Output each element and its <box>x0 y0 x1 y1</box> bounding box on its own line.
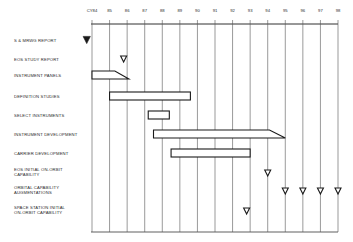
row-label: DEFINITION STUDIES <box>14 94 84 99</box>
x-tick-label: 89 <box>178 8 183 13</box>
gantt-bar <box>92 71 129 79</box>
x-tick-label: 87 <box>142 8 147 13</box>
row-label: INSTRUMENT PANELS <box>14 73 84 78</box>
gantt-bar <box>171 149 250 157</box>
row-label: SPACE STATION INITIAL ON-ORBIT CAPABILIT… <box>14 205 84 215</box>
open-milestone-icon <box>121 56 127 62</box>
row-label: INSTRUMENT DEVELOPMENT <box>14 132 84 137</box>
open-milestone-icon <box>244 208 250 214</box>
filled-milestone-icon <box>83 36 90 43</box>
gantt-bar <box>110 92 191 100</box>
open-milestone-icon <box>300 188 306 194</box>
open-milestone-icon <box>317 188 323 194</box>
x-tick-label: 94 <box>265 8 270 13</box>
gantt-bar <box>154 130 286 138</box>
open-milestone-icon <box>265 170 271 176</box>
x-tick-label: 90 <box>195 8 200 13</box>
x-tick-label: 91 <box>213 8 218 13</box>
x-tick-label: 97 <box>318 8 323 13</box>
row-label: EOS STUDY REPORT <box>14 57 84 62</box>
x-tick-label: 92 <box>230 8 235 13</box>
x-tick-label: 88 <box>160 8 165 13</box>
open-milestone-icon <box>282 188 288 194</box>
open-milestone-icon <box>335 188 341 194</box>
x-tick-label: 93 <box>248 8 253 13</box>
x-tick-label: 95 <box>283 8 288 13</box>
row-label: ORBITAL CAPABILITY AUGMENTATIONS <box>14 185 84 195</box>
row-label: CARRIER DEVELOPMENT <box>14 151 84 156</box>
x-tick-label: 85 <box>107 8 112 13</box>
row-label: SELECT INSTRUMENTS <box>14 113 84 118</box>
row-label: S & MRWG REPORT <box>14 38 84 43</box>
gantt-bar <box>148 111 169 119</box>
x-tick-label: CY84 <box>87 8 97 13</box>
row-label: EOS INITIAL ON-ORBIT CAPABILITY <box>14 167 84 177</box>
gantt-chart: CY848586878889909192939495969798S & MRWG… <box>0 0 353 242</box>
x-tick-label: 86 <box>125 8 130 13</box>
x-tick-label: 98 <box>336 8 341 13</box>
x-tick-label: 96 <box>301 8 306 13</box>
